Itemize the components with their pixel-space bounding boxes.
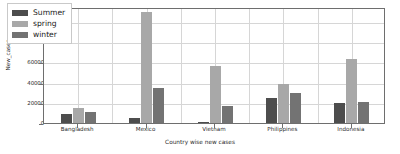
gridline-vertical (181, 9, 182, 123)
gridline-horizontal (44, 63, 384, 64)
y-tick-mark (39, 124, 43, 125)
bar-mexico-spring (141, 12, 152, 123)
x-tick-mark (146, 124, 147, 128)
legend-label: winter (33, 31, 57, 39)
bar-mexico-winter (153, 88, 164, 123)
bar-bangladesh-spring (73, 108, 84, 123)
legend-swatch-icon (12, 10, 28, 16)
x-tick-mark (77, 124, 78, 128)
bar-vietnam-summer (198, 122, 209, 123)
gridline-vertical (318, 9, 319, 123)
legend-label: spring (33, 20, 57, 28)
chart-legend: Summerspringwinter (7, 3, 72, 44)
bar-bangladesh-winter (85, 112, 96, 123)
bar-vietnam-spring (210, 66, 221, 123)
y-tick-label: 60000 (0, 60, 44, 65)
gridline-vertical (112, 9, 113, 123)
bar-indonesia-winter (358, 102, 369, 123)
y-tick-label: 0 (0, 121, 44, 126)
chart-figure: New_cases 020000400006000080000100000 Ba… (0, 0, 400, 154)
bar-bangladesh-summer (61, 114, 72, 123)
bar-philippines-spring (278, 84, 289, 123)
plot-area (43, 8, 385, 124)
legend-swatch-icon (12, 21, 28, 27)
legend-item-spring[interactable]: spring (12, 18, 65, 29)
legend-swatch-icon (12, 32, 28, 38)
legend-label: Summer (33, 9, 65, 17)
bar-philippines-summer (266, 98, 277, 123)
legend-item-summer[interactable]: Summer (12, 7, 65, 18)
x-tick-mark (214, 124, 215, 128)
gridline-vertical (249, 9, 250, 123)
legend-item-winter[interactable]: winter (12, 29, 65, 40)
gridline-vertical (78, 9, 79, 123)
gridline-horizontal (44, 23, 384, 24)
bar-indonesia-summer (334, 103, 345, 123)
y-tick-label: 20000 (0, 101, 44, 106)
y-tick-label: 40000 (0, 81, 44, 86)
bar-indonesia-spring (346, 59, 357, 123)
x-tick-mark (282, 124, 283, 128)
gridline-horizontal (44, 43, 384, 44)
x-tick-mark (351, 124, 352, 128)
bar-mexico-summer (129, 118, 140, 123)
x-axis-label: Country wise new cases (0, 139, 400, 145)
bar-vietnam-winter (222, 106, 233, 123)
bar-philippines-winter (290, 93, 301, 123)
